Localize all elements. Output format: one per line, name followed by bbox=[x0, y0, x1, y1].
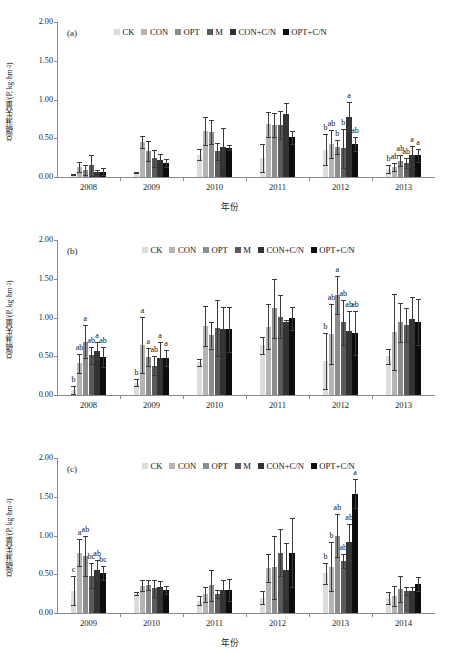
error-bar-cap-bottom bbox=[221, 600, 226, 601]
error-bar bbox=[331, 542, 332, 590]
error-bar bbox=[97, 342, 98, 359]
error-bar-cap-top bbox=[410, 146, 415, 147]
chart-panel-a: 总磷淋失量/(P, kg·hm-2) (a) CKCONOPTMCON+C/NO… bbox=[0, 4, 460, 218]
error-bar bbox=[355, 479, 356, 508]
error-bar-cap-bottom bbox=[140, 591, 145, 592]
significance-letter: ab bbox=[391, 152, 399, 161]
error-bar-cap-bottom bbox=[101, 580, 106, 581]
legend-item-ck[interactable]: CK bbox=[114, 27, 134, 37]
legend-item-con[interactable]: CON bbox=[141, 27, 168, 37]
legend-label: CON bbox=[178, 461, 196, 471]
y-tick-label: 1.50 bbox=[17, 56, 53, 65]
error-bar bbox=[389, 349, 390, 365]
error-bar-cap-top bbox=[398, 303, 403, 304]
legend-item-ck[interactable]: CK bbox=[142, 245, 162, 255]
error-bar-cap-top bbox=[140, 317, 145, 318]
error-bar-cap-bottom bbox=[329, 158, 334, 159]
error-bar-cap-bottom bbox=[398, 166, 403, 167]
legend-item-m[interactable]: M bbox=[235, 245, 251, 255]
error-bar-cap-bottom bbox=[290, 587, 295, 588]
legend-label: OPT bbox=[212, 245, 228, 255]
error-bar-cap-top bbox=[386, 592, 391, 593]
y-tick-mark bbox=[54, 100, 58, 101]
y-tick-mark bbox=[54, 356, 58, 357]
error-bar-cap-bottom bbox=[404, 342, 409, 343]
legend-item-opt[interactable]: OPT bbox=[175, 27, 200, 37]
legend-item-opt-c-n[interactable]: OPT+C/N bbox=[283, 27, 327, 37]
error-bar-cap-bottom bbox=[260, 172, 265, 173]
error-bar bbox=[97, 560, 98, 579]
error-bar-cap-bottom bbox=[329, 591, 334, 592]
legend-item-con[interactable]: CON bbox=[169, 245, 196, 255]
error-bar-cap-bottom bbox=[290, 330, 295, 331]
legend-item-con-c-n[interactable]: CON+C/N bbox=[258, 245, 304, 255]
legend-item-ck[interactable]: CK bbox=[142, 461, 162, 471]
error-bar bbox=[103, 347, 104, 367]
error-bar-cap-bottom bbox=[215, 160, 220, 161]
legend-item-con-c-n[interactable]: CON+C/N bbox=[258, 461, 304, 471]
error-bar-cap-top bbox=[140, 580, 145, 581]
error-bar-cap-top bbox=[290, 131, 295, 132]
error-bar-cap-bottom bbox=[335, 314, 340, 315]
error-bar-cap-top bbox=[323, 563, 328, 564]
plot-area-b: (b) CKCONOPTMCON+C/NOPT+C/N 0.000.501.00… bbox=[57, 240, 435, 395]
legend-swatch-icon bbox=[230, 29, 236, 35]
legend-item-m[interactable]: M bbox=[235, 461, 251, 471]
error-bar-cap-top bbox=[95, 170, 100, 171]
error-bar-cap-bottom bbox=[353, 508, 358, 509]
error-bar bbox=[286, 103, 287, 125]
x-tick-label: 2010 bbox=[206, 400, 223, 410]
legend-item-m[interactable]: M bbox=[207, 27, 223, 37]
legend-item-con[interactable]: CON bbox=[169, 461, 196, 471]
error-bar-cap-bottom bbox=[404, 168, 409, 169]
error-bar-cap-top bbox=[260, 337, 265, 338]
x-tick-label: 2009 bbox=[80, 618, 97, 628]
error-bar-cap-top bbox=[203, 117, 208, 118]
error-bar-cap-bottom bbox=[266, 582, 271, 583]
legend-label: CON+C/N bbox=[267, 461, 304, 471]
y-tick-label: 1.00 bbox=[17, 531, 53, 540]
error-bar-cap-top bbox=[197, 596, 202, 597]
error-bar bbox=[268, 112, 269, 137]
legend-item-opt[interactable]: OPT bbox=[203, 245, 228, 255]
legend-swatch-icon bbox=[235, 247, 241, 253]
error-bar bbox=[331, 130, 332, 158]
significance-letter: ab bbox=[82, 525, 90, 534]
error-bar-cap-top bbox=[164, 350, 169, 351]
x-axis-group-separator bbox=[309, 177, 310, 181]
error-bar-cap-top bbox=[221, 580, 226, 581]
x-tick-label: 2008 bbox=[80, 400, 97, 410]
error-bar bbox=[412, 587, 413, 595]
legend-item-con-c-n[interactable]: CON+C/N bbox=[230, 27, 276, 37]
error-bar-cap-top bbox=[158, 581, 163, 582]
bar-2010-ck bbox=[197, 362, 202, 395]
error-bar-cap-bottom bbox=[290, 144, 295, 145]
error-bar bbox=[205, 306, 206, 346]
error-bar bbox=[326, 563, 327, 585]
x-axis-group-separator bbox=[372, 177, 373, 181]
legend-label: CK bbox=[123, 27, 135, 37]
y-axis-exponent: -2 bbox=[7, 501, 13, 506]
error-bar-cap-top bbox=[266, 554, 271, 555]
error-bar-cap-bottom bbox=[404, 595, 409, 596]
legend-label: M bbox=[243, 245, 251, 255]
x-tick-label: 2010 bbox=[206, 182, 223, 192]
error-bar-cap-top bbox=[278, 529, 283, 530]
error-bar-cap-top bbox=[272, 536, 277, 537]
error-bar bbox=[217, 590, 218, 598]
error-bar bbox=[400, 576, 401, 602]
error-bar bbox=[229, 307, 230, 352]
x-axis-group-separator bbox=[120, 395, 121, 399]
legend-item-opt[interactable]: OPT bbox=[203, 461, 228, 471]
y-tick-label: 0.00 bbox=[17, 172, 53, 181]
significance-letter: ab bbox=[351, 300, 359, 309]
error-bar-cap-bottom bbox=[197, 160, 202, 161]
legend-item-opt-c-n[interactable]: OPT+C/N bbox=[311, 245, 355, 255]
error-bar-cap-top bbox=[101, 347, 106, 348]
error-bar bbox=[79, 162, 80, 171]
error-bar-cap-top bbox=[83, 165, 88, 166]
error-bar bbox=[286, 543, 287, 596]
error-bar bbox=[274, 113, 275, 138]
legend-item-opt-c-n[interactable]: OPT+C/N bbox=[311, 461, 355, 471]
error-bar bbox=[406, 587, 407, 595]
